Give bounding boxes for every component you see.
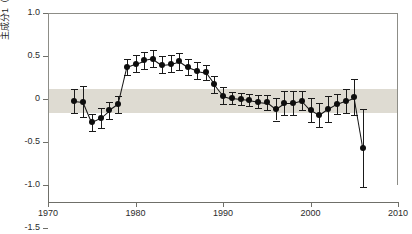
error-bar-cap — [141, 52, 148, 53]
error-bar-cap — [229, 92, 236, 93]
error-bar-cap — [316, 103, 323, 104]
data-point — [316, 112, 322, 118]
data-point — [334, 101, 340, 107]
error-bar-cap — [351, 79, 358, 80]
data-point — [343, 98, 349, 104]
error-bar-cap — [150, 50, 157, 51]
data-point — [299, 98, 305, 104]
error-bar-cap — [325, 96, 332, 97]
error-bar-cap — [211, 93, 218, 94]
x-tick — [223, 202, 224, 207]
data-point — [220, 93, 226, 99]
error-bar-cap — [133, 55, 140, 56]
error-bar-cap — [89, 131, 96, 132]
y-tick — [43, 142, 48, 143]
error-bar-cap — [290, 91, 297, 92]
data-point — [71, 98, 77, 104]
error-bar-cap — [308, 122, 315, 123]
error-bar-cap — [264, 95, 271, 96]
data-point — [238, 96, 244, 102]
data-point — [133, 61, 139, 67]
error-bar-cap — [159, 56, 166, 57]
plot-frame-top — [48, 13, 398, 14]
error-bar-cap — [71, 89, 78, 90]
error-bar-cap — [106, 102, 113, 103]
error-bar-cap — [238, 105, 245, 106]
y-axis-title: 主成分1（葉のサイズ） — [0, 0, 11, 40]
error-bar-cap — [334, 94, 341, 95]
error-bar-cap — [124, 59, 131, 60]
error-bar-cap — [194, 79, 201, 80]
y-tick — [43, 56, 48, 57]
error-bar-cap — [273, 98, 280, 99]
error-bar-cap — [194, 62, 201, 63]
error-bar-cap — [255, 95, 262, 96]
error-bar-cap — [98, 128, 105, 129]
x-tick-label: 2010 — [388, 209, 408, 218]
data-point — [308, 107, 314, 113]
error-bar-cap — [185, 59, 192, 60]
x-tick-label: 1980 — [125, 209, 145, 218]
data-point — [185, 64, 191, 70]
error-bar-cap — [176, 53, 183, 54]
error-bar-cap — [246, 106, 253, 107]
y-tick — [43, 228, 48, 229]
y-tick — [43, 99, 48, 100]
x-tick-label: 1990 — [213, 209, 233, 218]
y-tick-label: -1.0 — [8, 180, 40, 189]
error-bar-cap — [168, 72, 175, 73]
x-tick-label: 1970 — [38, 209, 58, 218]
error-bar-cap — [343, 113, 350, 114]
error-bar-cap — [115, 113, 122, 114]
error-bar-cap — [168, 55, 175, 56]
data-point — [194, 68, 200, 74]
x-tick — [311, 202, 312, 207]
error-bar-cap — [203, 80, 210, 81]
data-point — [80, 99, 86, 105]
error-bar-cap — [273, 121, 280, 122]
error-bar-cap — [71, 113, 78, 114]
error-bar-cap — [325, 122, 332, 123]
error-bar-cap — [220, 104, 227, 105]
data-point — [159, 62, 165, 68]
x-tick — [398, 202, 399, 207]
error-bar-cap — [255, 108, 262, 109]
error-bar-cap — [238, 93, 245, 94]
plot-frame-right — [397, 13, 398, 185]
data-point — [273, 106, 279, 112]
error-bar-cap — [106, 119, 113, 120]
data-point — [98, 115, 104, 121]
error-bar-cap — [229, 104, 236, 105]
error-bar-cap — [343, 89, 350, 90]
error-bar-cap — [211, 76, 218, 77]
error-bar-cap — [159, 73, 166, 74]
data-point — [141, 57, 147, 63]
error-bar-cap — [281, 91, 288, 92]
data-point — [360, 145, 366, 151]
error-bar-cap — [203, 65, 210, 66]
error-bar-cap — [89, 114, 96, 115]
error-bar-cap — [299, 91, 306, 92]
error-bar-cap — [141, 69, 148, 70]
data-point — [203, 69, 209, 75]
y-tick — [43, 185, 48, 186]
data-point — [124, 64, 130, 70]
error-bar-cap — [290, 115, 297, 116]
error-bar-cap — [299, 110, 306, 111]
error-bar-cap — [98, 108, 105, 109]
error-bar-cap — [133, 72, 140, 73]
y-tick-label: -0.5 — [8, 137, 40, 146]
error-bar-cap — [150, 67, 157, 68]
x-tick — [136, 202, 137, 207]
y-tick-label: 0 — [8, 94, 40, 103]
x-tick-label: 2000 — [300, 209, 320, 218]
error-bar-cap — [220, 87, 227, 88]
error-bar-cap — [316, 127, 323, 128]
error-bar-cap — [176, 70, 183, 71]
chart-figure: 主成分1（葉のサイズ） 1.00.50-0.5-1.0-1.5 19701980… — [0, 0, 412, 234]
error-bar-cap — [360, 187, 367, 188]
x-tick — [48, 202, 49, 207]
error-bar-cap — [185, 75, 192, 76]
data-point — [229, 95, 235, 101]
error-bar-cap — [80, 117, 87, 118]
